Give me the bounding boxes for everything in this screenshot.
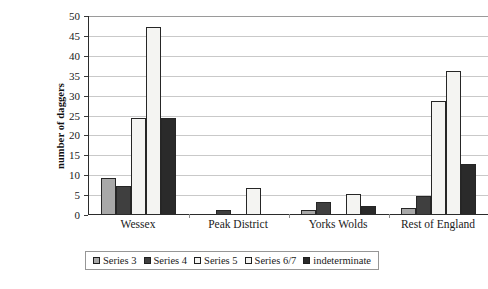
legend-label: Series 5 (204, 255, 238, 266)
bar (346, 194, 361, 214)
legend-item[interactable]: Series 6/7 (245, 255, 297, 266)
bar (146, 27, 161, 214)
bar (101, 178, 116, 214)
y-tick-label: 40 (46, 50, 80, 61)
legend-item[interactable]: indeterminate (303, 255, 371, 266)
bar (131, 118, 146, 214)
bar (446, 71, 461, 214)
x-category-label: Wessex (88, 218, 188, 238)
bar (461, 164, 476, 214)
x-category-label: Peak District (188, 218, 288, 238)
legend-label: indeterminate (313, 255, 371, 266)
y-axis-tick-labels: 05101520253035404550 (44, 16, 84, 215)
y-tick-label: 25 (46, 110, 80, 121)
legend-label: Series 6/7 (255, 255, 297, 266)
bar (216, 210, 231, 214)
plot-area-wrapper: number of daggers 05101520253035404550 W… (44, 8, 446, 215)
legend-swatch-icon (93, 257, 100, 264)
plot-axes (88, 16, 488, 215)
y-tick-label: 30 (46, 90, 80, 101)
y-tick-label: 10 (46, 170, 80, 181)
bar-group (89, 16, 189, 214)
bar-groups (89, 16, 488, 214)
y-tick-label: 0 (46, 210, 80, 221)
x-category-label: Yorks Wolds (288, 218, 388, 238)
y-tick-label: 45 (46, 30, 80, 41)
x-axis-category-labels: WessexPeak DistrictYorks WoldsRest of En… (88, 218, 488, 238)
legend-label: Series 3 (103, 255, 137, 266)
y-tick-label: 20 (46, 130, 80, 141)
legend-swatch-icon (245, 257, 252, 264)
bar (431, 101, 446, 214)
legend-swatch-icon (144, 257, 151, 264)
legend-item[interactable]: Series 3 (93, 255, 137, 266)
y-tick-mark (84, 215, 88, 216)
y-tick-label: 35 (46, 70, 80, 81)
y-tick-label: 15 (46, 150, 80, 161)
legend-item[interactable]: Series 4 (144, 255, 188, 266)
legend-swatch-icon (194, 257, 201, 264)
bar (301, 210, 316, 214)
legend-swatch-icon (303, 257, 310, 264)
bar (161, 118, 176, 214)
bar (246, 188, 261, 214)
bar (361, 206, 376, 214)
bar (316, 202, 331, 214)
bar-group (289, 16, 389, 214)
bar (401, 208, 416, 214)
x-category-label: Rest of England (388, 218, 488, 238)
bar (116, 186, 131, 214)
chart-legend: Series 3Series 4Series 5Series 6/7indete… (85, 251, 379, 270)
bar (416, 196, 431, 214)
legend-item[interactable]: Series 5 (194, 255, 238, 266)
y-tick-label: 5 (46, 190, 80, 201)
bar-group (189, 16, 289, 214)
y-tick-label: 50 (46, 11, 80, 22)
bar-group (388, 16, 488, 214)
legend-label: Series 4 (154, 255, 188, 266)
